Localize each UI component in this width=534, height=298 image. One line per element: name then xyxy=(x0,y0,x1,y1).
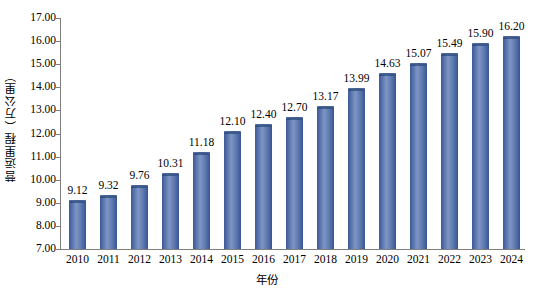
bar-value-label: 13.99 xyxy=(344,72,370,84)
y-axis-tick-label: 14.00 xyxy=(4,81,56,93)
bar xyxy=(379,73,396,249)
bar-top-cap xyxy=(255,124,272,127)
bar-value-label: 11.18 xyxy=(189,136,214,148)
x-axis-tick-label: 2016 xyxy=(248,252,279,266)
bar-group: 12.40 xyxy=(248,18,279,249)
bar-value-label: 15.90 xyxy=(468,27,494,39)
bar-top-cap xyxy=(193,152,210,155)
x-axis-tick-labels: 2010201120122013201420152016201720182019… xyxy=(60,252,525,270)
bar-group: 12.10 xyxy=(217,18,248,249)
y-axis-tick-mark xyxy=(56,226,60,227)
bar xyxy=(286,117,303,249)
bar-group: 10.31 xyxy=(155,18,186,249)
bar xyxy=(317,106,334,249)
bar-group: 15.07 xyxy=(403,18,434,249)
bar xyxy=(162,173,179,249)
y-axis-tick-label: 12.00 xyxy=(4,128,56,140)
bar-value-label: 15.07 xyxy=(406,47,432,59)
x-axis-tick-label: 2024 xyxy=(496,252,527,266)
bar-group: 9.12 xyxy=(62,18,93,249)
y-axis-tick-label: 16.00 xyxy=(4,35,56,47)
y-axis-tick-mark xyxy=(56,203,60,204)
y-axis-tick-label: 7.00 xyxy=(4,243,56,255)
bar-top-cap xyxy=(286,117,303,120)
y-axis-tick-mark xyxy=(56,87,60,88)
bar-value-label: 12.10 xyxy=(220,115,246,127)
bar-group: 9.32 xyxy=(93,18,124,249)
y-axis-tick-label: 11.00 xyxy=(4,151,56,163)
x-axis-tick-label: 2014 xyxy=(186,252,217,266)
bar xyxy=(255,124,272,249)
bar-top-cap xyxy=(131,185,148,188)
bar-top-cap xyxy=(348,88,365,91)
x-axis-tick-label: 2020 xyxy=(372,252,403,266)
x-axis-title: 年份 xyxy=(0,271,534,287)
bar-top-cap xyxy=(162,173,179,176)
x-axis-tick-label: 2018 xyxy=(310,252,341,266)
x-axis-tick-label: 2010 xyxy=(62,252,93,266)
bar-group: 13.99 xyxy=(341,18,372,249)
bar-value-label: 16.20 xyxy=(499,20,525,32)
bar-chart: 营运里程（万公里） 17.0016.0015.0014.0013.0012.00… xyxy=(0,0,534,298)
bar-group: 15.90 xyxy=(465,18,496,249)
bar-top-cap xyxy=(472,43,489,46)
bar-value-label: 14.63 xyxy=(375,57,401,69)
bar-top-cap xyxy=(503,36,520,39)
y-axis-tick-labels: 17.0016.0015.0014.0013.0012.0011.0010.00… xyxy=(0,18,56,249)
x-axis-tick-label: 2021 xyxy=(403,252,434,266)
x-axis-tick-label: 2013 xyxy=(155,252,186,266)
y-axis-tick-mark xyxy=(56,157,60,158)
bar xyxy=(348,88,365,249)
bar xyxy=(410,63,427,249)
bar xyxy=(131,185,148,249)
bar-top-cap xyxy=(317,106,334,109)
y-axis-tick-label: 17.00 xyxy=(4,12,56,24)
bar xyxy=(472,43,489,249)
bar-group: 12.70 xyxy=(279,18,310,249)
y-axis-tick-label: 8.00 xyxy=(4,220,56,232)
y-axis-tick-mark xyxy=(56,64,60,65)
y-axis-tick-label: 9.00 xyxy=(4,197,56,209)
bar xyxy=(100,195,117,249)
bar-top-cap xyxy=(379,73,396,76)
x-axis-tick-label: 2012 xyxy=(124,252,155,266)
y-axis-tick-label: 15.00 xyxy=(4,58,56,70)
bar-top-cap xyxy=(100,195,117,198)
bar xyxy=(503,36,520,249)
y-axis-tick-mark xyxy=(56,18,60,19)
bar xyxy=(193,152,210,249)
bar-group: 9.76 xyxy=(124,18,155,249)
x-axis-tick-label: 2023 xyxy=(465,252,496,266)
bar-top-cap xyxy=(224,131,241,134)
bar xyxy=(69,200,86,249)
y-axis-tick-mark xyxy=(56,41,60,42)
x-axis-tick-label: 2015 xyxy=(217,252,248,266)
bar-group: 13.17 xyxy=(310,18,341,249)
bar-value-label: 15.49 xyxy=(437,37,463,49)
y-axis-line xyxy=(60,18,61,249)
y-axis-tick-mark xyxy=(56,180,60,181)
bar-group: 14.63 xyxy=(372,18,403,249)
x-axis-tick-label: 2017 xyxy=(279,252,310,266)
bar-top-cap xyxy=(410,63,427,66)
bar-value-label: 9.12 xyxy=(67,184,87,196)
bar-group: 11.18 xyxy=(186,18,217,249)
bar-top-cap xyxy=(69,200,86,203)
bar-group: 16.20 xyxy=(496,18,527,249)
bar-value-label: 9.32 xyxy=(98,179,118,191)
bar xyxy=(224,131,241,249)
bar xyxy=(441,53,458,249)
bar-value-label: 12.70 xyxy=(282,101,308,113)
bar-top-cap xyxy=(441,53,458,56)
x-axis-tick-label: 2019 xyxy=(341,252,372,266)
x-axis-tick-label: 2022 xyxy=(434,252,465,266)
x-axis-line xyxy=(60,249,525,250)
y-axis-tick-mark xyxy=(56,134,60,135)
bar-value-label: 13.17 xyxy=(313,90,339,102)
y-axis-tick-mark xyxy=(56,249,60,250)
bar-value-label: 10.31 xyxy=(158,157,184,169)
bar-value-label: 12.40 xyxy=(251,108,277,120)
y-axis-tick-mark xyxy=(56,110,60,111)
bar-group: 15.49 xyxy=(434,18,465,249)
y-axis-tick-label: 13.00 xyxy=(4,104,56,116)
